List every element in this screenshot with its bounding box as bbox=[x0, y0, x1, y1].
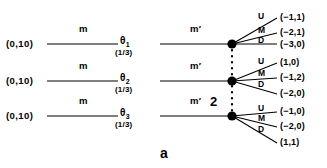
row3-branch-D bbox=[232, 116, 277, 143]
row3-initial-payoff: (0,10) bbox=[6, 111, 33, 121]
row1-type-index: 1 bbox=[126, 41, 130, 48]
row2-branch-label-U: U bbox=[258, 57, 264, 66]
row3-branch-label-M: M bbox=[258, 114, 265, 123]
row1-type-label: θ1 bbox=[120, 36, 130, 48]
row2-type-index: 2 bbox=[126, 78, 130, 85]
row1-payoff-U: (−1,1) bbox=[280, 13, 305, 22]
decision-node-row1 bbox=[227, 39, 236, 48]
player-2-label: 2 bbox=[210, 95, 218, 108]
row2-second-move-label: m′ bbox=[190, 61, 202, 71]
row2-payoff-U: (1,0) bbox=[280, 58, 300, 67]
row1-initial-payoff: (0,10) bbox=[6, 39, 33, 49]
row2-branch-D bbox=[232, 81, 277, 94]
row3-type-index: 3 bbox=[126, 113, 130, 120]
row1-branch-label-M: M bbox=[258, 26, 265, 35]
row1-branch-U bbox=[232, 18, 277, 44]
row2-payoff-M: (−1,2) bbox=[280, 73, 305, 82]
tree-edges bbox=[0, 0, 327, 168]
row1-branch-M bbox=[232, 33, 277, 44]
row2-payoff-D: (−2,0) bbox=[280, 89, 305, 98]
game-tree-figure: (0,10) m θ1 (1/3) m′ U M D (−1,1) (−2,1)… bbox=[0, 0, 327, 168]
row2-type-label: θ2 bbox=[120, 73, 130, 85]
row3-branch-label-U: U bbox=[258, 104, 264, 113]
row1-payoff-M: (−2,1) bbox=[280, 28, 305, 37]
row2-first-move-label: m bbox=[79, 61, 88, 71]
row1-probability: (1/3) bbox=[115, 49, 132, 57]
row2-branch-label-D: D bbox=[258, 80, 264, 89]
row3-payoff-D: (1,1) bbox=[280, 138, 300, 147]
row3-type-label: θ3 bbox=[120, 108, 130, 120]
row3-branch-M bbox=[232, 116, 277, 127]
row3-second-move-label: m′ bbox=[190, 96, 202, 106]
row1-branch-label-U: U bbox=[258, 12, 264, 21]
figure-caption: a bbox=[160, 146, 168, 160]
row3-payoff-M: (−2,0) bbox=[280, 122, 305, 131]
row2-initial-payoff: (0,10) bbox=[6, 76, 33, 86]
row1-second-move-label: m′ bbox=[190, 24, 202, 34]
row3-payoff-U: (−1,0) bbox=[280, 107, 305, 116]
row3-first-move-label: m bbox=[79, 96, 88, 106]
row3-probability: (1/3) bbox=[115, 121, 132, 129]
decision-node-row2 bbox=[227, 76, 236, 85]
row3-branch-U bbox=[232, 112, 277, 116]
row2-branch-label-M: M bbox=[258, 69, 265, 78]
row1-first-move-label: m bbox=[79, 24, 88, 34]
row3-branch-label-D: D bbox=[258, 125, 264, 134]
row1-branch-label-D: D bbox=[258, 36, 264, 45]
decision-node-row3 bbox=[227, 111, 236, 120]
row1-payoff-D: (−3,0) bbox=[280, 40, 305, 49]
row2-probability: (1/3) bbox=[115, 86, 132, 94]
